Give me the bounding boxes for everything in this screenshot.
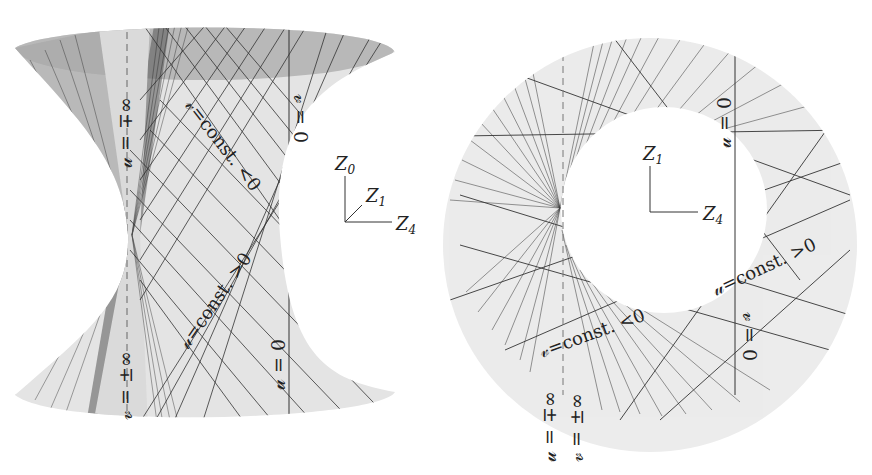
label-v-inf: 𝓋 = ±∞ (114, 351, 136, 420)
projection-figure: 𝓊 = 0 𝓊=const. >0 𝓋=const. <0 𝓋 = 0 𝓊 = … (443, 14, 857, 462)
label-u-inf: 𝓊 = ∓∞ (538, 391, 560, 462)
label-v-zero: 𝓋 = 0 (739, 312, 761, 361)
label-u-inf: 𝓊 = ∓∞ (114, 97, 136, 168)
svg-text:Z4: Z4 (395, 213, 416, 237)
label-v-inf: 𝓋 = ±∞ (565, 393, 587, 462)
label-u-zero: 𝓊 = 0 (713, 97, 735, 148)
hyperboloid-figure: 𝓊 = ∓∞ 𝓋 = ±∞ 𝓋=const. <0 𝓊=const. >0 𝓋 … (15, 16, 460, 430)
label-u-zero: 𝓊 = 0 (267, 339, 289, 390)
axes-3d: Z0 Z1 Z4 (334, 153, 416, 237)
svg-text:Z1: Z1 (365, 185, 386, 209)
svg-text:Z0: Z0 (334, 153, 356, 177)
diagram-canvas: 𝓊 = ∓∞ 𝓋 = ±∞ 𝓋=const. <0 𝓊=const. >0 𝓋 … (0, 0, 872, 475)
label-v-zero: 𝓋 = 0 (290, 94, 312, 143)
